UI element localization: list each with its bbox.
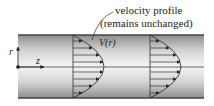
- v-of-r-label: V(r): [99, 37, 116, 48]
- r-axis-label: r: [9, 46, 13, 57]
- fully-developed-pipe-flow-diagram: velocity profile (remains unchanged) V(r…: [0, 0, 214, 106]
- remains-unchanged-label: (remains unchanged): [100, 17, 193, 29]
- z-axis-label: z: [36, 55, 40, 66]
- velocity-profile-label: velocity profile: [115, 4, 183, 16]
